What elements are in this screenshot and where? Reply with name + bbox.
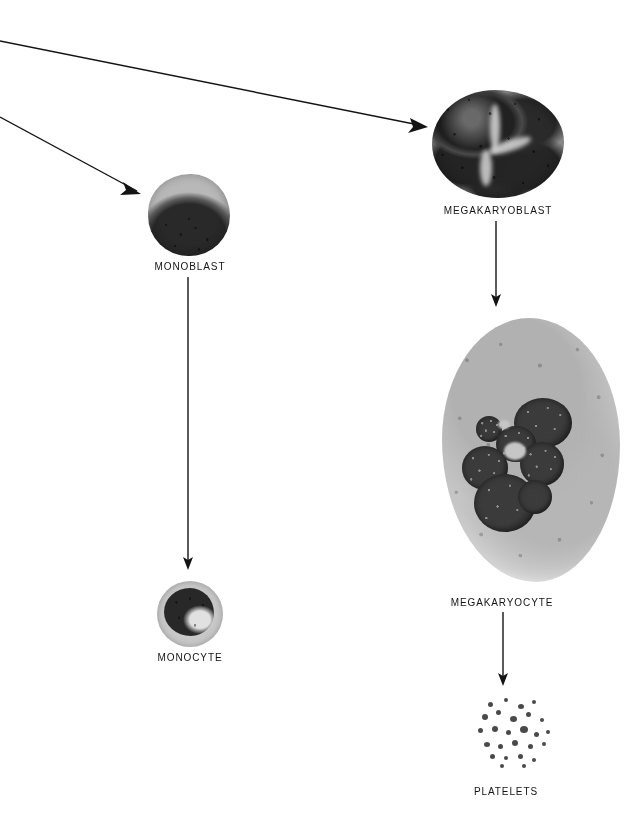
monocyte-chromatin-grain (164, 588, 214, 636)
nucleus-lobe-7 (518, 480, 552, 514)
platelet (482, 714, 488, 720)
arrow-to-monoblast-line (0, 117, 137, 191)
cell-monoblast[interactable] (146, 172, 234, 260)
platelet (504, 756, 508, 760)
nucleus-lobe-4-grain (520, 442, 564, 486)
nucleus-lacuna-2 (498, 420, 510, 429)
platelet (542, 742, 546, 746)
platelet (532, 758, 536, 762)
platelet (534, 732, 539, 737)
cell-megakaryocyte[interactable] (438, 312, 624, 588)
megakaryoblast-chromatin-grain (432, 90, 564, 198)
label-monocyte: MONOCYTE (158, 652, 223, 663)
platelet (478, 728, 483, 733)
platelet (520, 726, 528, 733)
arrow-monoblast-to-monocyte-head (183, 557, 193, 570)
platelet (526, 712, 531, 717)
platelet (492, 726, 498, 732)
nucleus-central-lacuna (504, 442, 526, 460)
arrow-megakaryocyte-to-platelets-head (498, 673, 508, 686)
arrow-to-megakaryoblast-line (0, 41, 424, 126)
platelet (512, 740, 518, 746)
platelet (498, 744, 503, 749)
label-platelets: PLATELETS (474, 786, 538, 797)
platelet (506, 730, 511, 735)
platelet (540, 718, 544, 722)
platelet (546, 730, 550, 734)
cell-megakaryoblast[interactable] (428, 88, 568, 200)
platelet (504, 698, 508, 702)
cell-platelets[interactable] (474, 696, 562, 772)
platelet (532, 700, 536, 704)
arrow-megakaryoblast-to-megakaryocyte-head (491, 294, 501, 307)
platelet (500, 764, 504, 768)
monoblast-chromatin-grain (148, 174, 230, 256)
megakaryocyte-nucleus (460, 398, 578, 538)
platelet (496, 710, 501, 715)
label-megakaryocyte: MEGAKARYOCYTE (451, 597, 554, 608)
platelet (518, 754, 523, 759)
platelet (484, 742, 490, 747)
platelet (490, 754, 495, 759)
platelet (528, 744, 533, 749)
arrow-to-megakaryoblast-head (408, 118, 428, 133)
platelet (488, 702, 493, 707)
cell-monocyte[interactable] (156, 580, 224, 648)
platelet (518, 704, 524, 709)
label-monoblast: MONOBLAST (155, 261, 226, 272)
platelet (510, 716, 517, 722)
diagram-canvas: MEGAKARYOBLAST MONOBLAST MEGAKARYOCYTE (0, 0, 639, 813)
label-megakaryoblast: MEGAKARYOBLAST (444, 205, 553, 216)
platelet (522, 764, 526, 768)
arrow-to-monoblast-head (120, 182, 141, 195)
